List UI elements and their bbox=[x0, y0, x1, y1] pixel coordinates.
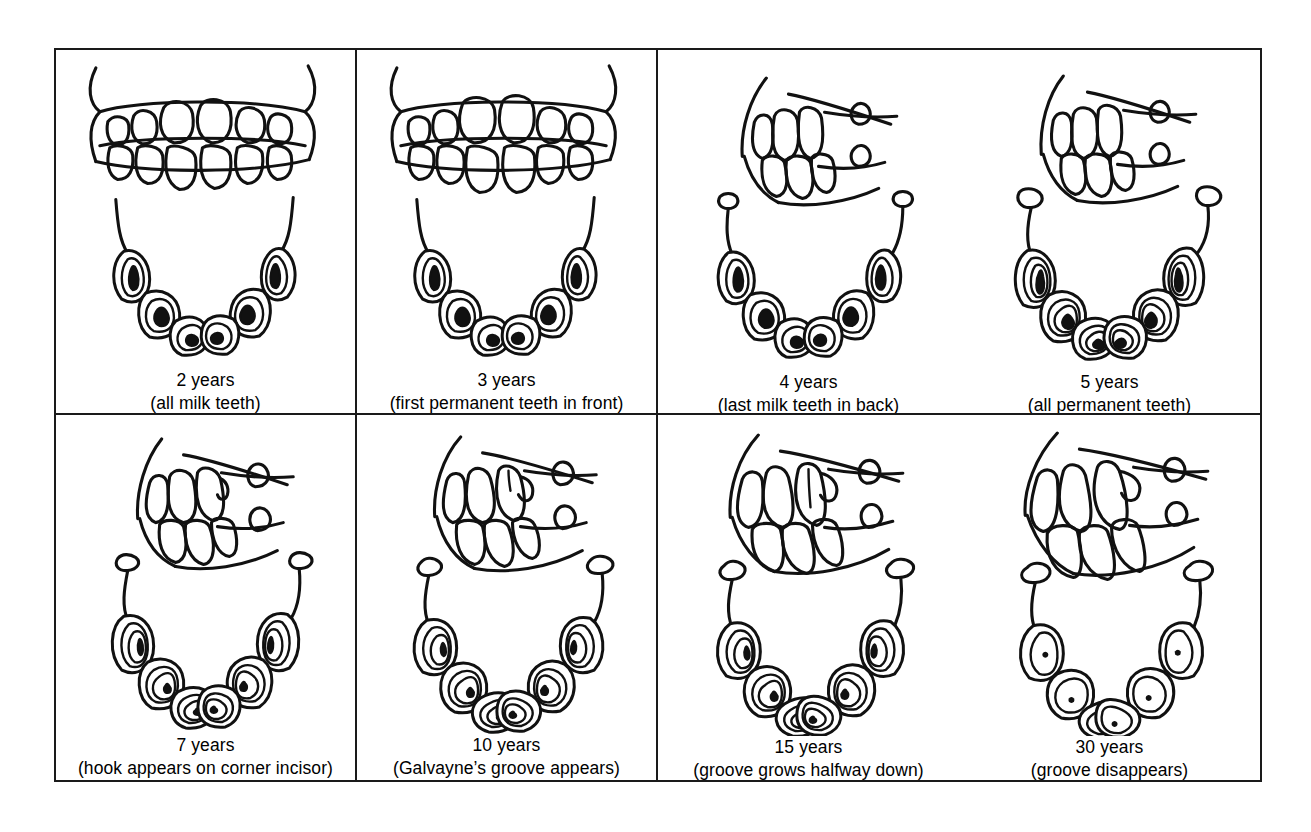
occlusal-arch-30 bbox=[1020, 561, 1212, 736]
caption-note: (groove disappears) bbox=[959, 759, 1260, 780]
profile-incisors-side-30 bbox=[1025, 433, 1208, 579]
caption-age: 10 years bbox=[357, 734, 656, 757]
occlusal-arch-10 bbox=[414, 556, 613, 732]
chart-cell-10-years: 10 years (Galvayne’s groove appears) bbox=[357, 415, 658, 780]
caption-3-years: 3 years (first permanent teeth in front) bbox=[357, 369, 656, 415]
profile-incisors-closed-2 bbox=[90, 66, 315, 190]
profile-incisors-side-15 bbox=[730, 435, 903, 573]
occlusal-arch-7 bbox=[112, 553, 312, 729]
caption-age: 3 years bbox=[357, 369, 656, 392]
caption-note: (last milk teeth in back) bbox=[658, 394, 959, 415]
figure-10-years bbox=[357, 415, 656, 734]
chart-cell-4-years: 4 years (last milk teeth in back) bbox=[658, 50, 959, 415]
caption-age: 15 years bbox=[658, 736, 959, 759]
chart-cell-5-years: 5 years (all permanent teeth) bbox=[959, 50, 1260, 415]
occlusal-arch-5 bbox=[1015, 187, 1220, 360]
profile-incisors-side-5 bbox=[1041, 76, 1196, 203]
caption-15-years: 15 years (groove grows halfway down) bbox=[658, 736, 959, 780]
caption-2-years: 2 years (all milk teeth) bbox=[56, 369, 355, 415]
caption-note: (hook appears on corner incisor) bbox=[56, 757, 355, 780]
caption-note: (all milk teeth) bbox=[56, 392, 355, 415]
chart-cell-3-years: 3 years (first permanent teeth in front) bbox=[357, 50, 658, 415]
caption-age: 30 years bbox=[959, 736, 1260, 759]
occlusal-arch-2 bbox=[114, 198, 295, 356]
caption-age: 2 years bbox=[56, 369, 355, 392]
caption-10-years: 10 years (Galvayne’s groove appears) bbox=[357, 734, 656, 780]
profile-incisors-side-10 bbox=[434, 437, 596, 571]
occlusal-arch-4 bbox=[718, 191, 912, 357]
caption-5-years: 5 years (all permanent teeth) bbox=[959, 371, 1260, 415]
caption-age: 5 years bbox=[959, 371, 1260, 394]
profile-incisors-side-7 bbox=[137, 439, 293, 569]
figure-30-years bbox=[959, 415, 1260, 736]
chart-cell-2-years: 2 years (all milk teeth) bbox=[56, 50, 357, 415]
caption-7-years: 7 years (hook appears on corner incisor) bbox=[56, 734, 355, 780]
chart-cell-15-years: 15 years (groove grows halfway down) bbox=[658, 415, 959, 780]
caption-note: (Galvayne’s groove appears) bbox=[357, 757, 656, 780]
caption-note: (groove grows halfway down) bbox=[658, 759, 959, 780]
chart-cell-7-years: 7 years (hook appears on corner incisor) bbox=[56, 415, 357, 780]
caption-age: 7 years bbox=[56, 734, 355, 757]
profile-incisors-side-4 bbox=[742, 78, 897, 205]
figure-15-years bbox=[658, 415, 959, 736]
figure-5-years bbox=[959, 50, 1260, 371]
caption-note: (first permanent teeth in front) bbox=[357, 392, 656, 415]
occlusal-arch-15 bbox=[717, 559, 913, 736]
occlusal-arch-3 bbox=[415, 198, 596, 356]
caption-30-years: 30 years (groove disappears) bbox=[959, 736, 1260, 780]
chart-cell-30-years: 30 years (groove disappears) bbox=[959, 415, 1260, 780]
figure-7-years bbox=[56, 415, 355, 734]
figure-3-years bbox=[357, 50, 656, 369]
teeth-aging-chart-grid: 2 years (all milk teeth) bbox=[54, 48, 1262, 782]
profile-incisors-closed-3 bbox=[391, 66, 616, 193]
caption-note: (all permanent teeth) bbox=[959, 394, 1260, 415]
figure-4-years bbox=[658, 50, 959, 371]
caption-age: 4 years bbox=[658, 371, 959, 394]
figure-2-years bbox=[56, 50, 355, 369]
caption-4-years: 4 years (last milk teeth in back) bbox=[658, 371, 959, 415]
